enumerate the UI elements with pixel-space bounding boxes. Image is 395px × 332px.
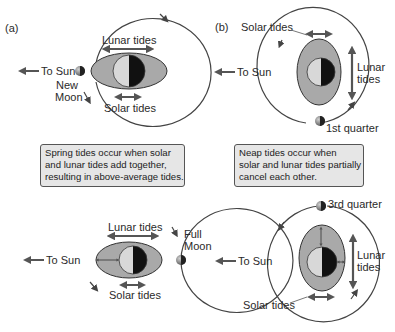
to-sun-label: To Sun <box>237 66 271 78</box>
orbit-direction-arrow <box>90 282 96 289</box>
callout-line2: solar and lunar tides partially <box>239 159 359 171</box>
earth <box>307 247 337 277</box>
lunar-tides-label-line1: Lunar <box>357 249 385 261</box>
moon-label: 1st quarter <box>326 122 379 134</box>
lunar-tides-label-line2: tides <box>357 73 381 85</box>
solar-tides-leader <box>291 30 307 35</box>
panel-a-label: (a) <box>5 22 18 34</box>
earth <box>119 246 147 274</box>
neap-tides-callout: Neap tides occur when solar and lunar ti… <box>234 144 364 187</box>
to-sun-label: To Sun <box>46 254 80 266</box>
callout-line1: Neap tides occur when <box>239 147 359 159</box>
orbit-direction-arrow <box>172 227 176 234</box>
moon-label: 3rd quarter <box>328 198 382 210</box>
earth <box>307 58 335 86</box>
lunar-tides-label-line2: tides <box>357 261 381 273</box>
callout-line2: and lunar tides add together, <box>45 159 180 171</box>
panel-b-label: (b) <box>215 21 228 33</box>
callout-line3: cancel each other. <box>239 171 359 183</box>
earth <box>113 55 145 87</box>
lunar-tides-label: Lunar tides <box>102 34 157 46</box>
orbit-direction-arrow <box>280 40 282 45</box>
lunar-tides-label-line1: Lunar <box>357 61 385 73</box>
callout-line1: Spring tides occur when solar <box>45 147 180 159</box>
moon-label-line2: Moon <box>55 91 83 103</box>
to-sun-label: To Sun <box>238 255 272 267</box>
orbit-direction-arrow <box>84 92 89 101</box>
spring-tides-callout: Spring tides occur when solar and lunar … <box>40 144 185 187</box>
to-sun-label: To Sun <box>41 65 75 77</box>
panel-b-bottom: Lunar tides Solar tides To Sun 3rd quart… <box>219 198 385 322</box>
moon-label-line2: Moon <box>184 240 212 252</box>
moon-label-line1: New <box>56 79 78 91</box>
orbit-direction-arrow <box>280 222 284 228</box>
panel-b-top: (b) Solar tides Lunar tides To Sun 1st q… <box>215 7 385 134</box>
lunar-tides-label: Lunar tides <box>108 221 163 233</box>
solar-tides-label: Solar tides <box>109 289 161 301</box>
solar-tides-label: Solar tides <box>104 102 156 114</box>
moon-label-line1: Full <box>184 228 202 240</box>
callout-line3: resulting in above-average tides. <box>45 171 180 183</box>
orbit-direction-arrow <box>351 292 356 299</box>
moon-orbit <box>181 209 293 313</box>
solar-tides-label: Solar tides <box>243 299 295 311</box>
panel-a-top: (a) Lunar tides Solar tides To Sun New M… <box>5 14 211 127</box>
